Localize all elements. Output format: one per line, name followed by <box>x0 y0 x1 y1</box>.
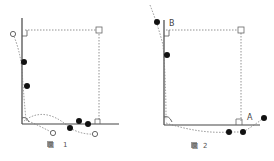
corner-square <box>238 27 244 33</box>
filled-point <box>76 118 82 124</box>
filled-point <box>240 129 246 135</box>
open-point <box>92 131 97 136</box>
filled-point <box>154 19 160 25</box>
open-point <box>10 31 15 36</box>
filled-point <box>24 83 30 89</box>
figure-1-caption-prefix: 図 <box>48 141 54 149</box>
open-point <box>50 130 55 135</box>
dashed-curve <box>13 34 53 133</box>
label-a: A <box>247 113 253 122</box>
dotted-rectangle <box>166 30 241 121</box>
figure-2-caption-prefix: 図 <box>192 142 198 150</box>
filled-point <box>226 129 232 135</box>
filled-point <box>21 59 27 65</box>
figure-1-caption-number: 1 <box>63 141 67 149</box>
label-b: B <box>169 19 175 28</box>
figure-1: 図 1 <box>10 18 119 149</box>
corner-square <box>96 27 102 33</box>
angle-arc <box>164 117 172 122</box>
diagram-canvas: 図 1 B A 図 2 <box>0 0 274 161</box>
filled-point <box>164 52 170 58</box>
right-angle-mark <box>95 119 100 124</box>
figure-2-caption-number: 2 <box>203 142 207 150</box>
filled-point <box>261 115 267 121</box>
right-angle-mark <box>22 30 27 36</box>
dotted-rectangle <box>25 30 99 121</box>
right-angle-mark <box>164 30 169 36</box>
figure-2: B A 図 2 <box>150 5 267 150</box>
filled-point <box>67 125 73 131</box>
filled-point <box>85 121 91 127</box>
right-angle-mark <box>236 119 242 125</box>
